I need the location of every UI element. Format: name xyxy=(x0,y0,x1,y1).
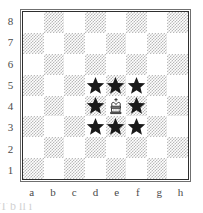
board-grid xyxy=(23,12,188,179)
rank-label-4: 4 xyxy=(0,96,21,117)
board-square-a6[interactable] xyxy=(23,54,44,75)
board-square-f3[interactable] xyxy=(126,116,147,137)
board-square-f4[interactable] xyxy=(126,96,147,117)
white-king-icon-e4[interactable] xyxy=(106,96,126,116)
board-square-f6[interactable] xyxy=(126,54,147,75)
board-square-d2[interactable] xyxy=(85,137,106,158)
board-square-h3[interactable] xyxy=(167,116,188,137)
board-square-b5[interactable] xyxy=(44,75,65,96)
board-square-f5[interactable] xyxy=(126,75,147,96)
board-square-e2[interactable] xyxy=(106,137,127,158)
board-square-f7[interactable] xyxy=(126,33,147,54)
board-square-b2[interactable] xyxy=(44,137,65,158)
board-square-h7[interactable] xyxy=(167,33,188,54)
board-square-g1[interactable] xyxy=(147,158,168,179)
rank-label-5: 5 xyxy=(0,75,21,96)
board-square-d6[interactable] xyxy=(85,54,106,75)
file-label-h: h xyxy=(170,184,191,200)
board-square-d5[interactable] xyxy=(85,75,106,96)
board-square-g4[interactable] xyxy=(147,96,168,117)
file-label-c: c xyxy=(64,184,85,200)
board-square-a8[interactable] xyxy=(23,12,44,33)
rank-label-8: 8 xyxy=(0,11,21,32)
star-icon-f4 xyxy=(127,96,146,115)
board-square-d8[interactable] xyxy=(85,12,106,33)
chess-diagram: 8 7 6 5 4 3 2 1 a b c d e f g h T b ll i xyxy=(0,0,203,213)
board-square-d4[interactable] xyxy=(85,96,106,117)
board-square-a4[interactable] xyxy=(23,96,44,117)
rank-label-6: 6 xyxy=(0,54,21,75)
board-square-f1[interactable] xyxy=(126,158,147,179)
bottom-cutoff-caption: T b ll i xyxy=(0,203,203,213)
rank-label-3: 3 xyxy=(0,117,21,138)
star-icon-f5 xyxy=(127,76,146,95)
file-label-f: f xyxy=(127,184,148,200)
board-square-c7[interactable] xyxy=(64,33,85,54)
file-label-e: e xyxy=(106,184,127,200)
star-icon-d5 xyxy=(86,76,105,95)
board-square-e6[interactable] xyxy=(106,54,127,75)
rank-label-1: 1 xyxy=(0,160,21,181)
rank-label-7: 7 xyxy=(0,32,21,53)
board-square-b8[interactable] xyxy=(44,12,65,33)
board-square-f2[interactable] xyxy=(126,137,147,158)
board-square-b6[interactable] xyxy=(44,54,65,75)
board-square-g2[interactable] xyxy=(147,137,168,158)
board-square-a3[interactable] xyxy=(23,116,44,137)
board-square-h5[interactable] xyxy=(167,75,188,96)
board-square-a7[interactable] xyxy=(23,33,44,54)
board-square-e7[interactable] xyxy=(106,33,127,54)
board-square-e3[interactable] xyxy=(106,116,127,137)
board-square-e5[interactable] xyxy=(106,75,127,96)
board-frame xyxy=(20,9,191,182)
board-square-e1[interactable] xyxy=(106,158,127,179)
board-square-e8[interactable] xyxy=(106,12,127,33)
board-square-g7[interactable] xyxy=(147,33,168,54)
board-square-c3[interactable] xyxy=(64,116,85,137)
file-label-a: a xyxy=(21,184,42,200)
star-icon-d3 xyxy=(86,117,105,136)
board-square-d1[interactable] xyxy=(85,158,106,179)
board-square-h1[interactable] xyxy=(167,158,188,179)
board-square-c1[interactable] xyxy=(64,158,85,179)
board-square-g8[interactable] xyxy=(147,12,168,33)
board-square-b7[interactable] xyxy=(44,33,65,54)
board-square-b4[interactable] xyxy=(44,96,65,117)
board-square-g5[interactable] xyxy=(147,75,168,96)
board-frame-inner xyxy=(22,11,189,180)
board-square-h8[interactable] xyxy=(167,12,188,33)
board-square-c6[interactable] xyxy=(64,54,85,75)
file-label-row: a b c d e f g h xyxy=(21,184,191,200)
board-square-d3[interactable] xyxy=(85,116,106,137)
board-square-g3[interactable] xyxy=(147,116,168,137)
star-icon-d4 xyxy=(86,96,105,115)
star-icon-e5 xyxy=(106,76,125,95)
rank-label-column: 8 7 6 5 4 3 2 1 xyxy=(0,11,21,181)
board-square-c4[interactable] xyxy=(64,96,85,117)
board-square-d7[interactable] xyxy=(85,33,106,54)
board-square-f8[interactable] xyxy=(126,12,147,33)
star-icon-e3 xyxy=(106,117,125,136)
board-square-c2[interactable] xyxy=(64,137,85,158)
board-square-a5[interactable] xyxy=(23,75,44,96)
board-square-a1[interactable] xyxy=(23,158,44,179)
file-label-d: d xyxy=(85,184,106,200)
star-icon-f3 xyxy=(127,117,146,136)
board-square-b3[interactable] xyxy=(44,116,65,137)
board-square-c8[interactable] xyxy=(64,12,85,33)
board-square-a2[interactable] xyxy=(23,137,44,158)
file-label-g: g xyxy=(149,184,170,200)
board-square-h2[interactable] xyxy=(167,137,188,158)
file-label-b: b xyxy=(42,184,63,200)
bottom-cutoff-caption-text: T b ll i xyxy=(0,203,32,212)
board-square-g6[interactable] xyxy=(147,54,168,75)
board-square-b1[interactable] xyxy=(44,158,65,179)
rank-label-2: 2 xyxy=(0,139,21,160)
board-square-h4[interactable] xyxy=(167,96,188,117)
board-square-c5[interactable] xyxy=(64,75,85,96)
board-square-e4[interactable] xyxy=(106,96,127,117)
board-square-h6[interactable] xyxy=(167,54,188,75)
